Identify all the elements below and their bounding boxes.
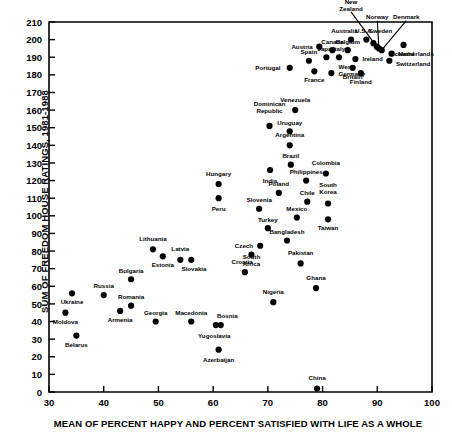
point-label: Bosnia [217, 312, 238, 319]
data-point [298, 260, 304, 266]
x-tick-label: 60 [208, 397, 219, 408]
point-label: Taiwan [318, 224, 339, 231]
data-point [153, 318, 159, 324]
data-point [294, 214, 300, 220]
data-point [276, 190, 282, 196]
point-label: Portugal [255, 64, 280, 71]
point-label: Bulgaria [119, 267, 144, 274]
x-axis-title: MEAN OF PERCENT HAPPY AND PERCENT SATISF… [28, 418, 448, 429]
data-point [160, 253, 166, 259]
point-label: Italy [333, 45, 346, 52]
point-label: Turkey [258, 216, 278, 223]
data-point [336, 54, 342, 60]
point-label: Finland [350, 78, 372, 85]
data-point [62, 310, 68, 316]
point-label: Moldova [53, 318, 79, 325]
point-label: Macedonia [175, 309, 208, 316]
data-point [287, 142, 293, 148]
x-tick-label: 80 [317, 397, 328, 408]
data-point [69, 290, 75, 296]
data-point [325, 216, 331, 222]
y-tick-label: 10 [31, 369, 42, 380]
data-point [311, 68, 317, 74]
data-point [188, 257, 194, 263]
point-label: Estonia [152, 261, 175, 268]
data-point [345, 47, 351, 53]
data-point [325, 200, 331, 206]
point-label: Slovakia [181, 265, 207, 272]
data-point [328, 70, 334, 76]
scatter-chart: 0102030405060708090100110120130140150160… [0, 0, 452, 439]
point-label: Mexico [286, 205, 307, 212]
data-point [292, 107, 298, 113]
data-point [303, 177, 309, 183]
data-point [352, 56, 358, 62]
data-point [256, 206, 262, 212]
data-point [288, 162, 294, 168]
data-point [150, 246, 156, 252]
point-label: Brazil [282, 152, 299, 159]
point-label: Chile [300, 189, 316, 196]
point-label: Switzerland [396, 60, 431, 67]
point-label: Denmark [393, 13, 420, 20]
point-label: Venezuela [280, 96, 310, 103]
point-label: China [308, 374, 326, 381]
y-tick-label: 190 [26, 52, 42, 63]
point-label: Belarus [65, 341, 88, 348]
y-tick-label: 210 [26, 17, 42, 28]
point-label: Latvia [171, 245, 189, 252]
point-label: Netherlands [398, 50, 434, 57]
point-label: Philippines [290, 168, 324, 175]
data-point [242, 269, 248, 275]
data-point [188, 318, 194, 324]
axes-layer [49, 22, 432, 392]
point-label: SouthKorea [319, 181, 337, 195]
data-point [270, 299, 276, 305]
data-point [306, 58, 312, 64]
data-point [314, 385, 320, 391]
data-point [323, 170, 329, 176]
data-point [128, 303, 134, 309]
point-label: Colombia [312, 159, 341, 166]
point-label: Armenia [108, 316, 133, 323]
data-point [128, 276, 134, 282]
point-label: Nigeria [263, 288, 285, 295]
point-label: Ukraine [61, 298, 84, 305]
plot-canvas: 0102030405060708090100110120130140150160… [0, 0, 452, 439]
y-tick-label: 20 [31, 351, 42, 362]
point-label: Norway [366, 13, 389, 20]
point-label: Sweden [369, 27, 393, 34]
x-tick-label: 100 [424, 397, 440, 408]
point-label: Hungary [206, 170, 232, 177]
point-label: Yugoslavia [198, 332, 231, 339]
data-point [304, 199, 310, 205]
data-point [73, 333, 79, 339]
data-point [257, 243, 263, 249]
data-point [379, 47, 385, 53]
point-label: Ireland [363, 55, 384, 62]
y-tick-label: 0 [37, 387, 42, 398]
data-point [284, 237, 290, 243]
data-point [313, 285, 319, 291]
point-label: Austria [291, 43, 313, 50]
point-label: Argentina [275, 131, 304, 138]
data-point [386, 58, 392, 64]
y-axis-title: SUM OF FREEDOM HOUSE RATINGS, 1981-1988 [39, 72, 50, 332]
data-point [363, 37, 369, 43]
point-label: Azerbaijan [203, 356, 235, 363]
x-tick-label: 50 [153, 397, 164, 408]
point-label: SouthAfrica [243, 253, 261, 267]
data-point [216, 195, 222, 201]
data-points-layer [62, 37, 406, 392]
point-label: Ghana [306, 274, 326, 281]
point-label: France [304, 76, 325, 83]
data-point [213, 322, 219, 328]
data-point [117, 308, 123, 314]
data-point [323, 54, 329, 60]
point-labels-layer: MoldovaUkraineBelarusRussiaArmeniaBulgar… [53, 0, 435, 381]
x-tick-label: 30 [44, 397, 55, 408]
x-tick-label: 40 [98, 397, 109, 408]
point-label: Bangladesh [269, 228, 304, 235]
x-tick-label: 90 [372, 397, 383, 408]
point-label: Belgium [336, 38, 361, 45]
